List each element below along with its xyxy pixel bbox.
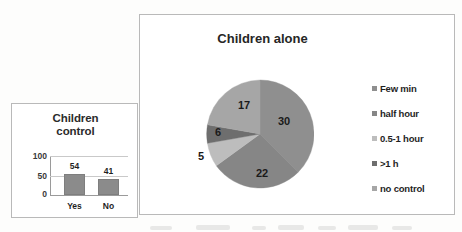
scan-artifact [348, 225, 378, 230]
legend-label-half-hour: half hour [380, 109, 419, 119]
bar-chart-gridline-100: 100 [50, 156, 128, 157]
bar-chart-panel: Children control 100 50 0 54 Yes 41 No [11, 103, 138, 218]
legend-item-few-min[interactable]: Few min [372, 76, 452, 101]
scan-artifact [252, 226, 266, 230]
figure-canvas: Children control 100 50 0 54 Yes 41 No [0, 0, 462, 232]
legend-item-no-control[interactable]: no control [372, 176, 452, 201]
scan-artifact [392, 226, 412, 230]
bar-chart-ytick-100: 100 [33, 152, 47, 160]
pie-chart-title: Children alone [140, 31, 385, 46]
pie-label-half-to-one-hour: 5 [198, 151, 204, 162]
bar-chart-title-line1: Children [12, 112, 139, 125]
legend-swatch-icon-more-than-one-hour [372, 161, 377, 166]
bar-yes[interactable] [64, 174, 85, 195]
legend-item-more-than-one-hour[interactable]: >1 h [372, 151, 452, 176]
legend-label-few-min: Few min [380, 84, 417, 94]
legend-swatch-icon-no-control [372, 186, 377, 191]
bar-chart-title-line2: control [12, 125, 139, 138]
legend-label-half-to-one-hour: 0.5-1 hour [380, 134, 423, 144]
pie-label-more-than-one-hour: 6 [215, 127, 221, 138]
bar-chart-ytick-0: 0 [42, 190, 47, 198]
pie-chart-legend: Few min half hour 0.5-1 hour >1 h no con… [372, 76, 452, 201]
pie-chart-panel: Children alone 30 22 5 6 17 [139, 14, 455, 215]
bar-value-no: 41 [94, 167, 123, 176]
scan-artifact [150, 226, 172, 230]
legend-item-half-hour[interactable]: half hour [372, 101, 452, 126]
bar-no[interactable] [98, 179, 119, 195]
legend-swatch-icon-few-min [372, 86, 377, 91]
bar-chart-plot-area: 100 50 0 54 Yes 41 No [50, 156, 128, 195]
pie-label-no-control: 17 [238, 100, 250, 111]
pie-chart-graphic: 30 22 5 6 17 [206, 79, 314, 189]
pie-label-half-hour: 22 [256, 168, 268, 179]
bar-chart-title: Children control [12, 112, 139, 138]
bar-category-yes: Yes [60, 202, 89, 211]
pie-label-few-min: 30 [278, 116, 290, 127]
legend-label-more-than-one-hour: >1 h [380, 159, 398, 169]
bar-value-yes: 54 [60, 162, 89, 171]
bar-category-no: No [94, 202, 123, 211]
bar-chart-gridline-0: 0 [50, 195, 128, 196]
legend-label-no-control: no control [380, 184, 424, 194]
legend-swatch-icon-half-hour [372, 111, 377, 116]
legend-item-half-to-one-hour[interactable]: 0.5-1 hour [372, 126, 452, 151]
bar-chart-ytick-50: 50 [38, 172, 47, 180]
legend-swatch-icon-half-to-one-hour [372, 136, 377, 141]
scan-artifact [318, 226, 336, 230]
bar-chart-gridline-50: 50 [50, 176, 128, 177]
scan-artifact [196, 225, 230, 230]
scan-artifact [278, 225, 304, 230]
